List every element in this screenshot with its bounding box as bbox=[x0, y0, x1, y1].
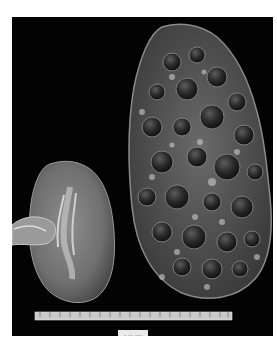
specimen-label: A-99-328 bbox=[118, 330, 148, 336]
polycystic-kidney bbox=[129, 24, 271, 298]
specimen-illustration bbox=[12, 17, 273, 336]
specimen-label-text: A-99-328 bbox=[118, 334, 148, 336]
specimen-photograph: A-99-328 bbox=[12, 17, 273, 336]
normal-kidney bbox=[12, 161, 114, 302]
scale-ruler bbox=[35, 312, 232, 320]
